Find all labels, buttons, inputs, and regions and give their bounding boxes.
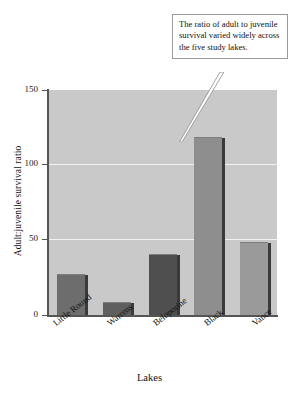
bar-chart-figure: 150 100 50 0 Adult:juvenile survival rat…: [0, 0, 299, 398]
category-labels-layer: Little RoundWarrensBeloporineBlackVance: [0, 0, 299, 398]
x-tick-label-black: Black: [202, 307, 225, 328]
callout-annotation: The ratio of adult to juvenile survival …: [172, 14, 288, 59]
x-tick-label-warrens: Warrens: [105, 302, 135, 328]
x-tick-label-little-round: Little Round: [51, 292, 93, 328]
callout-text: The ratio of adult to juvenile survival …: [179, 19, 279, 52]
x-tick-label-beloporine: Beloporine: [151, 295, 189, 328]
x-tick-label-vance: Vance: [250, 306, 273, 327]
